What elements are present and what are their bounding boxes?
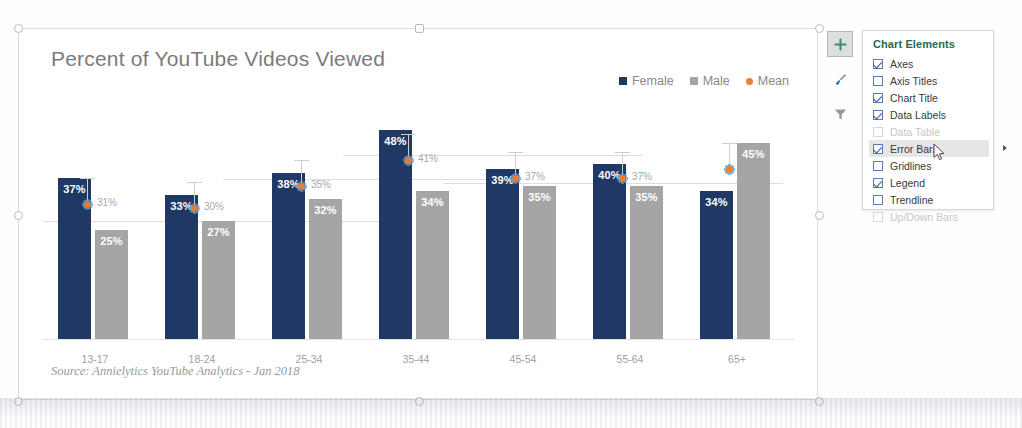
selection-handle-bottom-right[interactable] (815, 397, 824, 406)
bar-group: 34%45% (687, 99, 787, 339)
error-bar-cap (187, 182, 202, 183)
error-bar-cap (80, 178, 95, 179)
mean-marker[interactable] (723, 163, 736, 176)
chart-element-item-data-labels[interactable]: Data Labels (869, 106, 989, 123)
bar-male[interactable]: 27% (202, 221, 235, 339)
bar-label-male: 32% (314, 204, 337, 216)
bar-male[interactable]: 45% (737, 143, 770, 339)
chart-filters-button[interactable] (827, 101, 853, 127)
checkbox-icon[interactable] (873, 59, 883, 69)
mean-label: 37% (525, 171, 545, 182)
chart-element-label: Up/Down Bars (890, 211, 958, 223)
mean-label: 31% (97, 197, 117, 208)
mean-label: 35% (311, 179, 331, 190)
chart-element-item-chart-title[interactable]: Chart Title (869, 89, 989, 106)
scan-texture (0, 398, 1022, 428)
error-bar-cap (401, 134, 416, 135)
category-label: 35-44 (366, 353, 466, 365)
checkbox-icon[interactable] (873, 93, 883, 103)
bar-label-male: 35% (528, 191, 551, 203)
chart-styles-button[interactable] (827, 66, 853, 92)
chart-element-item-axis-titles[interactable]: Axis Titles (869, 72, 989, 89)
mean-marker[interactable]: 37% (509, 172, 522, 185)
checkbox-icon[interactable] (873, 195, 883, 205)
selection-handle-bottom-center[interactable] (415, 397, 424, 406)
chart-element-item-up-down-bars: Up/Down Bars (869, 208, 989, 225)
chart-element-item-error-bars[interactable]: Error Bars (869, 140, 989, 157)
legend-swatch-mean-icon (746, 78, 753, 85)
bar-female[interactable]: 38% (272, 173, 305, 339)
chart-element-item-data-table: Data Table (869, 123, 989, 140)
chart-element-label: Data Labels (890, 109, 946, 121)
checkbox-icon[interactable] (873, 144, 883, 154)
bar-female[interactable]: 39% (486, 169, 519, 339)
chart-element-label: Error Bars (890, 143, 938, 155)
chart-element-item-trendline[interactable]: Trendline (869, 191, 989, 208)
chart-elements-panel-title: Chart Elements (873, 38, 955, 50)
chart-element-label: Data Table (890, 126, 940, 138)
legend-label-male: Male (703, 74, 730, 88)
bar-label-female: 34% (705, 196, 728, 208)
legend-label-mean: Mean (758, 74, 789, 88)
bar-label-male: 27% (207, 226, 230, 238)
selection-handle-top-right[interactable] (815, 24, 824, 33)
selection-handle-top-left[interactable] (14, 24, 23, 33)
selection-handle-middle-left[interactable] (14, 211, 23, 220)
error-bar-cap (294, 160, 309, 161)
checkbox-icon (873, 212, 883, 222)
bar-label-male: 45% (742, 148, 765, 160)
bar-label-female: 37% (63, 183, 86, 195)
selection-handle-middle-right[interactable] (815, 211, 824, 220)
source-note: Source: Annielytics YouTube Analytics - … (51, 364, 300, 379)
mean-marker[interactable]: 35% (295, 180, 308, 193)
chart-elements-list: AxesAxis TitlesChart TitleData LabelsDat… (869, 55, 989, 225)
bar-female[interactable]: 40% (593, 164, 626, 339)
mean-marker[interactable]: 31% (81, 198, 94, 211)
legend-item-mean[interactable]: Mean (746, 74, 789, 88)
checkbox-icon[interactable] (873, 76, 883, 86)
chart-object-frame[interactable]: Percent of YouTube Videos Viewed Female … (18, 28, 818, 400)
error-bar-cap (615, 152, 630, 153)
category-label: 65+ (687, 353, 787, 365)
bar-female[interactable]: 33% (165, 195, 198, 339)
chart-element-label: Axis Titles (890, 75, 937, 87)
mean-marker[interactable]: 37% (616, 172, 629, 185)
mean-label: 37% (632, 171, 652, 182)
legend-item-female[interactable]: Female (619, 74, 674, 88)
mean-selection-ring-icon (616, 172, 629, 185)
bar-male[interactable]: 35% (630, 186, 663, 339)
mean-marker[interactable]: 41% (402, 154, 415, 167)
chart-quick-buttons (827, 31, 855, 136)
chart-title[interactable]: Percent of YouTube Videos Viewed (51, 47, 385, 71)
category-label: 55-64 (580, 353, 680, 365)
bar-male[interactable]: 34% (416, 191, 449, 339)
checkbox-icon[interactable] (873, 161, 883, 171)
selection-handle-bottom-left[interactable] (14, 397, 23, 406)
plot-area[interactable]: 37%25%31%33%27%30%38%32%35%48%34%41%39%3… (43, 99, 795, 339)
chart-element-item-legend[interactable]: Legend (869, 174, 989, 191)
mean-marker[interactable]: 30% (188, 202, 201, 215)
submenu-arrow-icon[interactable] (1003, 145, 1007, 151)
bar-group: 48%34%41% (366, 99, 466, 339)
chart-element-item-gridlines[interactable]: Gridlines (869, 157, 989, 174)
bar-label-male: 35% (635, 191, 658, 203)
paintbrush-icon (833, 72, 848, 87)
bar-label-female: 48% (384, 135, 407, 147)
bar-group: 38%32%35% (259, 99, 359, 339)
bar-male[interactable]: 35% (523, 186, 556, 339)
bar-label-male: 25% (100, 235, 123, 247)
bar-female[interactable]: 34% (700, 191, 733, 339)
bar-male[interactable]: 32% (309, 199, 342, 339)
mean-selection-ring-icon (81, 198, 94, 211)
checkbox-icon[interactable] (873, 178, 883, 188)
checkbox-icon[interactable] (873, 110, 883, 120)
legend-label-female: Female (632, 74, 674, 88)
legend-item-male[interactable]: Male (690, 74, 730, 88)
chart-elements-button[interactable] (827, 31, 853, 57)
selection-handle-top-center[interactable] (415, 24, 424, 33)
bar-group: 40%35%37% (580, 99, 680, 339)
chart-element-item-axes[interactable]: Axes (869, 55, 989, 72)
bar-male[interactable]: 25% (95, 230, 128, 339)
chart-elements-panel[interactable]: Chart Elements AxesAxis TitlesChart Titl… (862, 30, 994, 210)
chart-legend[interactable]: Female Male Mean (619, 74, 789, 88)
